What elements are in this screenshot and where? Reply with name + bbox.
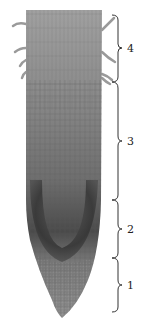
root-cap (36, 255, 92, 318)
bracket-zone-2 (112, 200, 122, 258)
bracket-zone-1 (112, 258, 122, 312)
zone-label-1: 1 (127, 280, 134, 291)
root-tip-figure: 4 3 2 1 (0, 0, 148, 330)
bracket-zone-3 (112, 82, 122, 200)
root-tip-illustration (0, 0, 148, 330)
zone-label-3: 3 (127, 136, 134, 147)
zone-label-4: 4 (127, 43, 134, 54)
zone-label-2: 2 (127, 224, 134, 235)
zone-brackets (112, 15, 122, 312)
bracket-zone-4 (112, 15, 122, 82)
